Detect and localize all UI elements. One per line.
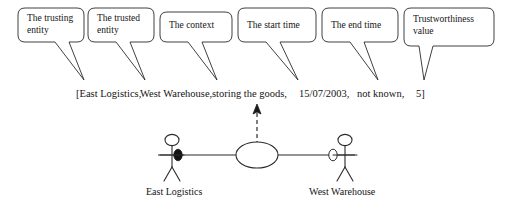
dashed-trace-arrow (253, 104, 261, 145)
actor-label-east-logistics: East Logistics (146, 186, 202, 198)
actor-head-icon (338, 134, 352, 145)
tuple-item-trustworthiness-value: 5] (416, 86, 425, 102)
callout-context (160, 12, 232, 80)
actor-leg-right-icon (172, 167, 180, 181)
actor-label-west-warehouse: West Warehouse (309, 186, 375, 198)
callout-trusting-entity (18, 8, 84, 80)
actor-head-icon (165, 134, 179, 145)
callout-bubble-trusting-entity (18, 8, 84, 80)
callout-start-time (238, 8, 316, 80)
tuple-item-trusted-entity: West Warehouse, (140, 86, 212, 102)
use-case-ellipse (236, 142, 278, 168)
callout-bubble-trusted-entity (88, 8, 154, 80)
tuple-expression: [East Logistics, West Warehouse, storing… (0, 86, 511, 102)
callout-bubble-start-time (238, 8, 316, 80)
actor-leg-left-icon (164, 167, 172, 181)
callout-group (18, 8, 494, 80)
dashed-arrow-head (253, 104, 261, 114)
callout-bubble-context (160, 12, 232, 80)
callout-bubble-trustworthiness-value (404, 8, 494, 80)
callout-trusted-entity (88, 8, 154, 80)
tuple-item-end-time: not known, (357, 86, 404, 102)
tuple-item-start-time: 15/07/2003, (299, 86, 349, 102)
tuple-item-context: storing the goods, (212, 86, 287, 102)
actor-leg-left-icon (337, 167, 345, 181)
actor-leg-right-icon (345, 167, 353, 181)
use-case-diagram (158, 104, 357, 181)
callout-trustworthiness-value (404, 8, 494, 80)
tuple-item-trusting-entity: [East Logistics, (76, 86, 141, 102)
callout-end-time (322, 8, 398, 80)
callout-bubble-end-time (322, 8, 398, 80)
trust-tuple-figure (0, 0, 511, 215)
